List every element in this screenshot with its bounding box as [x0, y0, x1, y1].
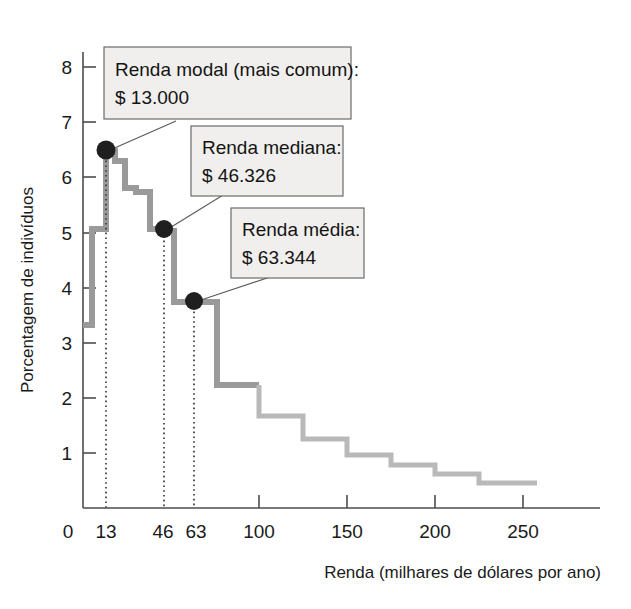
distribution-step-curve-tail [259, 385, 537, 483]
callout-media-line2: $ 63.344 [242, 247, 316, 268]
callout-mediana-line2: $ 46.326 [202, 165, 276, 186]
callout-modal[interactable]: Renda modal (mais comum): $ 13.000 [104, 47, 359, 119]
x-tick-label-46: 46 [152, 521, 173, 542]
y-tick-label-1: 1 [61, 443, 72, 464]
x-tick-label-150: 150 [331, 521, 363, 542]
income-distribution-figure: 8 7 6 5 4 3 2 1 0 13 46 63 100 150 200 2… [0, 0, 631, 609]
x-tick-label-0: 0 [63, 521, 74, 542]
x-tick-label-100: 100 [243, 521, 275, 542]
x-axis-ticks: 0 13 46 63 100 150 200 250 [63, 495, 539, 542]
callout-modal-line1: Renda modal (mais comum): [115, 59, 359, 80]
x-tick-label-200: 200 [419, 521, 451, 542]
marker-dot-media[interactable] [185, 292, 203, 310]
leader-line-modal [110, 121, 176, 150]
x-tick-label-63: 63 [185, 521, 206, 542]
x-tick-label-13: 13 [95, 521, 116, 542]
callout-media-line1: Renda média: [242, 219, 360, 240]
callout-modal-box [104, 47, 351, 119]
y-tick-label-7: 7 [61, 112, 72, 133]
y-tick-label-2: 2 [61, 388, 72, 409]
marker-dot-mediana[interactable] [155, 220, 173, 238]
y-tick-label-4: 4 [61, 278, 72, 299]
y-tick-label-3: 3 [61, 333, 72, 354]
x-axis-title: Renda (milhares de dólares por ano) [324, 563, 601, 582]
callout-mediana[interactable]: Renda mediana: $ 46.326 [191, 126, 343, 196]
y-axis-title: Porcentagem de indivíduos [18, 187, 37, 393]
chart-canvas: 8 7 6 5 4 3 2 1 0 13 46 63 100 150 200 2… [0, 0, 631, 609]
callout-media[interactable]: Renda média: $ 63.344 [231, 208, 364, 278]
y-tick-label-5: 5 [61, 223, 72, 244]
callout-modal-line2: $ 13.000 [115, 87, 189, 108]
marker-dot-modal[interactable] [97, 141, 116, 160]
leader-line-mediana [168, 192, 228, 229]
x-tick-label-250: 250 [507, 521, 539, 542]
callout-mediana-line1: Renda mediana: [202, 137, 341, 158]
y-tick-label-6: 6 [61, 167, 72, 188]
y-tick-label-8: 8 [61, 57, 72, 78]
